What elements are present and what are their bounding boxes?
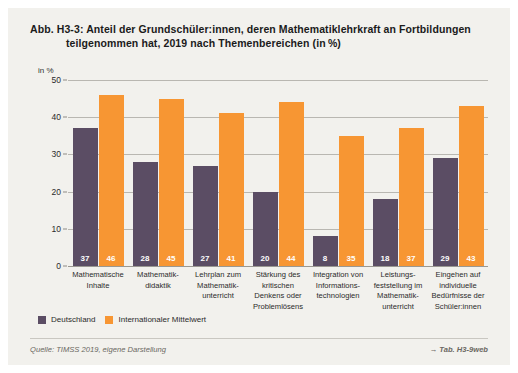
x-axis-label-line: feststellung im <box>368 281 428 292</box>
figure-title: Abb. H3-3: Anteil der Grundschüler:innen… <box>30 22 496 50</box>
y-axis-unit-label: in % <box>38 66 54 75</box>
x-axis-label-line: Mathematik- <box>368 291 428 302</box>
x-axis-label-line: unterricht <box>368 302 428 313</box>
x-axis-label: Mathematik-didaktik <box>128 270 188 291</box>
x-axis-label-line: didaktik <box>128 281 188 292</box>
bar-group: 2741 <box>188 80 248 266</box>
y-tick-label-10: 10 <box>52 224 61 234</box>
bar-international[interactable]: 37 <box>399 128 424 266</box>
x-axis-label-line: Denkens oder <box>248 291 308 302</box>
y-tick-mark-0 <box>63 266 67 267</box>
bar-value-label: 43 <box>459 254 484 263</box>
bar-value-label: 44 <box>279 254 304 263</box>
x-axis-label-line: Inhalte <box>68 281 128 292</box>
x-axis-label-line: Leistungs- <box>368 270 428 281</box>
legend-swatch-icon <box>38 316 46 324</box>
table-reference-link[interactable]: → Tab. H3-9web <box>430 345 488 354</box>
legend-swatch-icon <box>105 316 113 324</box>
bar-deutschland[interactable]: 37 <box>73 128 98 266</box>
bar-value-label: 27 <box>193 254 218 263</box>
bar-value-label: 29 <box>433 254 458 263</box>
bar-deutschland[interactable]: 29 <box>433 158 458 266</box>
x-axis-label-line: Mathematische <box>68 270 128 281</box>
y-tick-label-20: 20 <box>52 187 61 197</box>
bar-value-label: 18 <box>373 254 398 263</box>
legend-label: Deutschland <box>51 315 95 324</box>
x-axis-label-line: Mathematik- <box>188 281 248 292</box>
y-tick-label-50: 50 <box>52 75 61 85</box>
y-tick-mark-40 <box>63 117 67 118</box>
y-tick-mark-50 <box>63 80 67 81</box>
x-axis-label-line: individuelle <box>428 281 488 292</box>
x-axis-label-line: kritischen <box>248 281 308 292</box>
bar-value-label: 46 <box>99 254 124 263</box>
y-tick-mark-20 <box>63 191 67 192</box>
chart-area: in % 01020304050 37462845274120448351837… <box>30 66 492 316</box>
legend-item-deutschland[interactable]: Deutschland <box>38 315 95 324</box>
bar-group: 2044 <box>248 80 308 266</box>
bar-international[interactable]: 41 <box>219 113 244 266</box>
bar-value-label: 37 <box>399 254 424 263</box>
bar-group: 3746 <box>68 80 128 266</box>
x-axis-label-line: Integration von <box>308 270 368 281</box>
bar-value-label: 8 <box>313 254 338 263</box>
legend-label: Internationaler Mittelwert <box>118 315 206 324</box>
bar-value-label: 20 <box>253 254 278 263</box>
footer-divider <box>30 338 488 339</box>
y-tick-mark-30 <box>63 154 67 155</box>
bar-group: 1837 <box>368 80 428 266</box>
bar-deutschland[interactable]: 28 <box>133 162 158 266</box>
x-axis-label-line: Bedürfnisse der <box>428 291 488 302</box>
x-axis-category-labels: MathematischeInhalteMathematik-didaktikL… <box>68 270 488 320</box>
bar-international[interactable]: 44 <box>279 102 304 266</box>
source-note: Quelle: TIMSS 2019, eigene Darstellung <box>30 345 166 354</box>
x-axis-label: Lehrplan zumMathematik-unterricht <box>188 270 248 302</box>
y-tick-label-40: 40 <box>52 112 61 122</box>
plot-canvas: 01020304050 374628452741204483518372943 <box>68 80 488 266</box>
bar-international[interactable]: 43 <box>459 106 484 266</box>
bar-deutschland[interactable]: 20 <box>253 192 278 266</box>
bar-group: 2845 <box>128 80 188 266</box>
y-tick-mark-10 <box>63 228 67 229</box>
legend-item-international[interactable]: Internationaler Mittelwert <box>105 315 206 324</box>
x-axis-label-line: Mathematik- <box>128 270 188 281</box>
bar-deutschland[interactable]: 18 <box>373 199 398 266</box>
bar-international[interactable]: 46 <box>99 95 124 266</box>
figure-title-line-2: teilgenommen hat, 2019 nach Themenbereic… <box>30 36 496 50</box>
figure-title-line-1: Abb. H3-3: Anteil der Grundschüler:innen… <box>30 22 496 36</box>
x-axis-label-line: Eingehen auf <box>428 270 488 281</box>
y-tick-label-0: 0 <box>56 261 61 271</box>
bar-international[interactable]: 45 <box>159 99 184 266</box>
x-axis-label-line: technologien <box>308 291 368 302</box>
bar-group: 2943 <box>428 80 488 266</box>
figure-panel: Abb. H3-3: Anteil der Grundschüler:innen… <box>8 8 510 365</box>
bar-deutschland[interactable]: 27 <box>193 166 218 266</box>
x-axis-label-line: Informations- <box>308 281 368 292</box>
figure-footer: Quelle: TIMSS 2019, eigene Darstellung →… <box>30 345 488 354</box>
x-axis-label-line: Schüler:innen <box>428 302 488 313</box>
gridline-0 <box>68 266 488 267</box>
x-axis-label: Leistungs-feststellung imMathematik-unte… <box>368 270 428 312</box>
x-axis-label: Stärkung deskritischenDenkens oderProble… <box>248 270 308 312</box>
x-axis-label-line: Problemlösens <box>248 302 308 313</box>
x-axis-label-line: unterricht <box>188 291 248 302</box>
bar-value-label: 45 <box>159 254 184 263</box>
x-axis-label-line: Stärkung des <box>248 270 308 281</box>
bar-value-label: 28 <box>133 254 158 263</box>
y-tick-label-30: 30 <box>52 149 61 159</box>
bar-value-label: 41 <box>219 254 244 263</box>
chart-legend: DeutschlandInternationaler Mittelwert <box>38 315 206 324</box>
bar-deutschland[interactable]: 8 <box>313 236 338 266</box>
x-axis-label-line: Lehrplan zum <box>188 270 248 281</box>
bar-value-label: 35 <box>339 254 364 263</box>
bar-groups: 374628452741204483518372943 <box>68 80 488 266</box>
bar-group: 835 <box>308 80 368 266</box>
bar-value-label: 37 <box>73 254 98 263</box>
bar-international[interactable]: 35 <box>339 136 364 266</box>
x-axis-label: Eingehen aufindividuelleBedürfnisse derS… <box>428 270 488 312</box>
x-axis-label: MathematischeInhalte <box>68 270 128 291</box>
x-axis-label: Integration vonInformations-technologien <box>308 270 368 302</box>
